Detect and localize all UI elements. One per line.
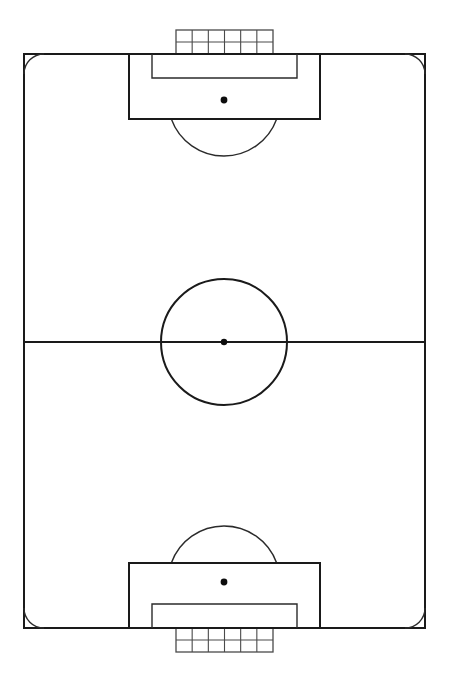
penalty-spot-bottom — [221, 579, 228, 586]
goal-net-top — [176, 30, 273, 54]
goal-net-bottom — [176, 628, 273, 652]
center-spot — [221, 339, 227, 345]
soccer-pitch-diagram — [0, 0, 452, 680]
penalty-spot-top — [221, 97, 228, 104]
